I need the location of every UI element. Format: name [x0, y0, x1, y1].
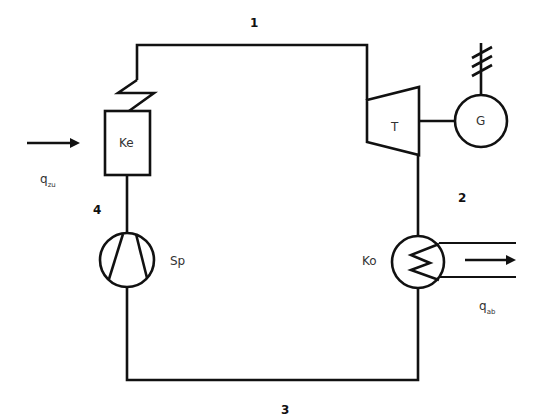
heat-in-arrow-head-icon: [70, 138, 80, 148]
state-point-3: 3: [281, 404, 289, 415]
heat-out-subscript: ab: [487, 308, 496, 316]
superheater-zigzag-icon: [118, 80, 154, 111]
pump-label: Sp: [170, 255, 185, 267]
heat-in-symbol: q: [40, 172, 48, 186]
cycle-schematic: [0, 0, 539, 415]
pipe-condenser-to-pump: [127, 287, 418, 380]
heat-in-label: qzu: [40, 173, 56, 189]
state-point-1: 1: [250, 17, 258, 29]
boiler-label: Ke: [119, 137, 134, 149]
heat-out-label: qab: [479, 300, 495, 316]
heat-out-symbol: q: [479, 299, 487, 313]
condenser-label: Ko: [362, 255, 377, 267]
heat-in-subscript: zu: [48, 181, 56, 189]
pump-icon: [100, 233, 154, 287]
turbine-label: T: [391, 121, 398, 133]
state-point-4: 4: [93, 204, 101, 216]
heat-out-arrow-head-icon: [506, 255, 516, 265]
pipe-boiler-to-turbine: [137, 45, 367, 100]
power-output-line-icon: [472, 43, 492, 95]
state-point-2: 2: [458, 192, 466, 204]
condenser-coil-icon: [411, 244, 439, 280]
generator-label: G: [476, 115, 485, 127]
pump-stroke-left: [109, 234, 123, 279]
